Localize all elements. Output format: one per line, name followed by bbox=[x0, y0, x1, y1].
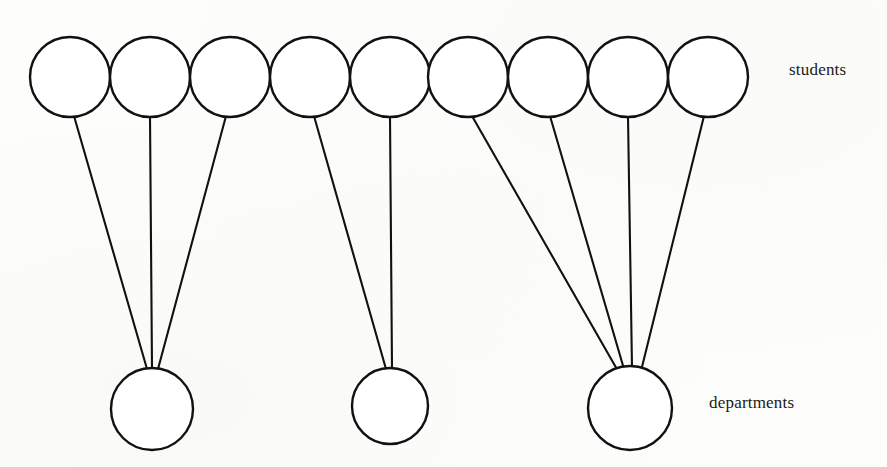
edge-s1-d1 bbox=[74, 116, 147, 369]
edge-s4-d2 bbox=[314, 116, 386, 369]
department-node-d3[interactable] bbox=[588, 366, 672, 450]
student-node-s2[interactable] bbox=[110, 37, 190, 117]
edge-s3-d1 bbox=[158, 116, 226, 369]
student-node-s3[interactable] bbox=[190, 37, 270, 117]
student-node-s6[interactable] bbox=[428, 37, 508, 117]
student-node-s4[interactable] bbox=[270, 37, 350, 117]
edge-s6-d3 bbox=[472, 116, 618, 371]
edge-s5-d2 bbox=[390, 117, 392, 368]
department-node-d2[interactable] bbox=[352, 368, 428, 444]
edge-s8-d3 bbox=[628, 117, 632, 367]
student-node-s1[interactable] bbox=[30, 37, 110, 117]
bipartite-graph-figure: students departments bbox=[0, 0, 887, 467]
department-node-d1[interactable] bbox=[111, 368, 193, 450]
students-node-group bbox=[30, 37, 748, 117]
edge-s9-d3 bbox=[641, 116, 704, 371]
departments-node-group bbox=[111, 366, 672, 450]
edge-s7-d3 bbox=[550, 116, 624, 369]
student-node-s9[interactable] bbox=[668, 37, 748, 117]
student-node-s8[interactable] bbox=[588, 37, 668, 117]
students-row-label: students bbox=[789, 60, 846, 80]
edge-s2-d1 bbox=[150, 117, 152, 368]
edges-group bbox=[74, 116, 704, 371]
student-node-s5[interactable] bbox=[350, 37, 430, 117]
student-node-s7[interactable] bbox=[508, 37, 588, 117]
departments-row-label: departments bbox=[709, 393, 794, 413]
